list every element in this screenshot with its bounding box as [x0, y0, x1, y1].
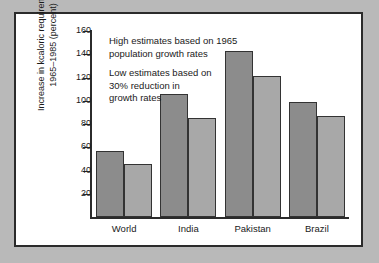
annotation-high-estimates: High estimates based on 1965 population … — [109, 35, 237, 60]
bar-pakistan-high — [225, 51, 253, 217]
bar-pakistan-low — [253, 76, 281, 217]
category-label-india: India — [156, 223, 220, 234]
x-axis-line — [90, 217, 349, 219]
y-tick-label-wrap: 120 — [46, 73, 91, 74]
y-tick-label: 140 — [65, 49, 91, 58]
y-tick-label: 20 — [65, 189, 91, 198]
bar-brazil-low — [317, 116, 345, 217]
y-tick-label-wrap: 40 — [46, 166, 91, 167]
annotation-low-line2: 30% reduction in — [109, 80, 211, 93]
y-tick-label: 40 — [65, 166, 91, 175]
y-tick-label-wrap: 140 — [46, 49, 91, 50]
bar-india-high — [160, 94, 188, 217]
y-tick-label: 100 — [65, 96, 91, 105]
annotation-low-estimates: Low estimates based on 30% reduction in … — [109, 67, 211, 105]
bar-india-low — [188, 118, 216, 217]
y-tick-label-wrap: 20 — [46, 189, 91, 190]
bar-world-low — [124, 164, 152, 217]
y-axis-title-line2: 1965–1985 (percent) — [47, 3, 59, 87]
annotation-low-line1: Low estimates based on — [109, 67, 211, 80]
y-tick-label: 60 — [65, 142, 91, 151]
y-tick-label-wrap: 60 — [46, 142, 91, 143]
bar-world-high — [96, 151, 124, 217]
y-tick-label-wrap: 160 — [46, 26, 91, 27]
annotation-low-line3: growth rates — [109, 92, 211, 105]
bar-brazil-high — [289, 102, 317, 217]
chart-figure: Increase in kcaloric requirements 1965–1… — [14, 12, 363, 247]
category-label-world: World — [92, 223, 156, 234]
plot-area: Increase in kcaloric requirements 1965–1… — [16, 14, 361, 245]
y-tick-label-wrap: 80 — [46, 119, 91, 120]
y-axis-title: Increase in kcaloric requirements 1965–1… — [34, 0, 60, 138]
category-label-brazil: Brazil — [285, 223, 349, 234]
y-axis-title-line1: Increase in kcaloric requirements — [35, 0, 47, 111]
y-tick-label-wrap: 100 — [46, 96, 91, 97]
y-tick-label: 120 — [65, 73, 91, 82]
annotation-high-line2: population growth rates — [109, 48, 237, 61]
y-tick-label: 80 — [65, 119, 91, 128]
annotation-high-line1: High estimates based on 1965 — [109, 35, 237, 48]
category-label-pakistan: Pakistan — [221, 223, 285, 234]
y-tick-label: 160 — [65, 26, 91, 35]
